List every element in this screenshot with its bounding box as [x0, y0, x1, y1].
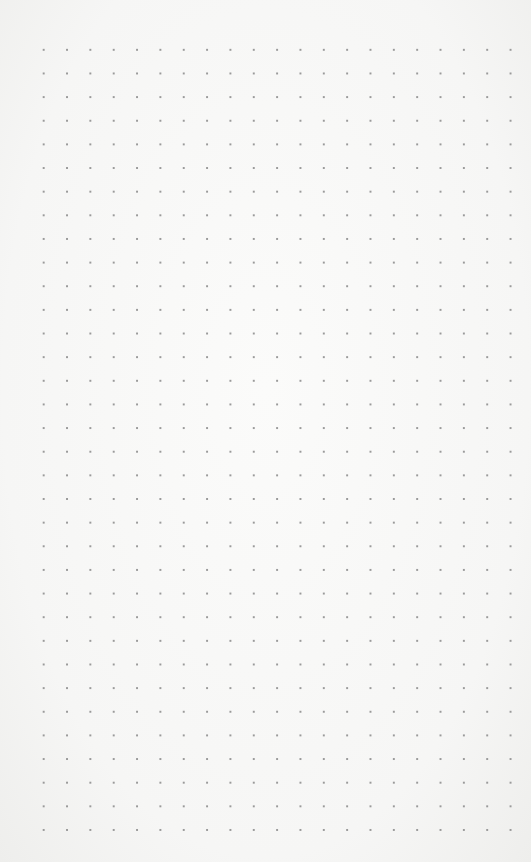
- dot-grid-pattern: [32, 38, 531, 848]
- dot-grid-paper: [0, 0, 531, 862]
